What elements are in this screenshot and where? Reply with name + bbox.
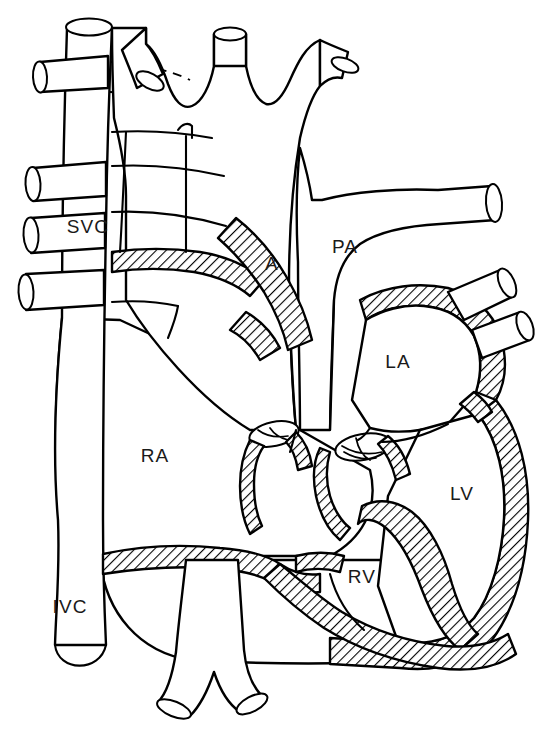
label-svc: SVC <box>67 216 109 237</box>
tributary-upper-opening <box>32 61 48 93</box>
heart-diagram-root: SVC A PA LA RA LV RV IVC <box>0 0 546 730</box>
tributary-vessel-upper <box>40 56 108 92</box>
label-left-ventricle: LV <box>450 483 474 504</box>
tricuspid-annulus-ridge <box>296 553 344 572</box>
label-right-atrium: RA <box>141 445 170 466</box>
tributary-vessel-second <box>33 162 106 201</box>
svc-trunk <box>55 28 112 645</box>
svc-top-opening <box>66 19 112 36</box>
label-pulmonary-artery: PA <box>332 236 358 257</box>
left-carotid-opening <box>214 28 246 41</box>
heart-anatomy-diagram: SVC A PA LA RA LV RV IVC <box>0 0 546 730</box>
label-left-atrium: LA <box>385 351 410 372</box>
tributary-vessel-fourth <box>26 270 104 310</box>
label-aorta: A <box>265 253 279 274</box>
label-right-ventricle: RV <box>348 566 376 587</box>
label-ivc: IVC <box>53 596 88 617</box>
